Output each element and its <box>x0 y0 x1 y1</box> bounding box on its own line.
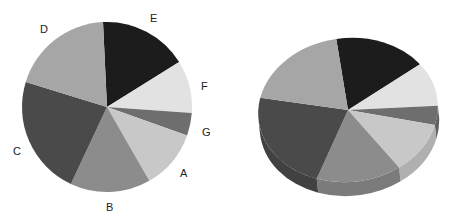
charts-canvas: E F G A B C D <box>0 0 453 218</box>
pie-chart-2d <box>22 22 192 192</box>
label-c: C <box>13 145 21 157</box>
label-e: E <box>150 12 157 24</box>
label-b: B <box>106 201 113 213</box>
label-a: A <box>180 167 188 179</box>
label-d: D <box>40 23 48 35</box>
pie-chart-3d <box>251 29 447 205</box>
label-f: F <box>201 80 208 92</box>
label-g: G <box>202 126 211 138</box>
